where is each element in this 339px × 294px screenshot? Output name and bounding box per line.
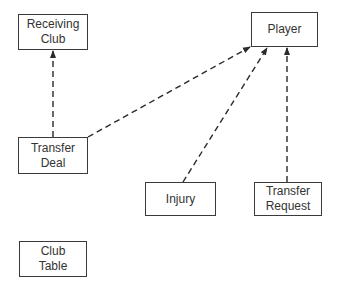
node-label: Club Table [39, 244, 68, 274]
node-label: Injury [166, 192, 195, 207]
node-club-table: Club Table [19, 241, 87, 277]
node-label: Receiving Club [27, 17, 80, 47]
node-player: Player [251, 12, 318, 47]
edge-injury-to-player [183, 48, 267, 182]
diagram-canvas: Receiving Club Player Transfer Deal Inju… [0, 0, 339, 294]
node-label: Transfer Deal [31, 141, 75, 171]
node-label: Transfer Request [266, 184, 311, 214]
node-receiving-club: Receiving Club [18, 14, 88, 50]
node-injury: Injury [145, 182, 216, 216]
node-transfer-deal: Transfer Deal [18, 137, 88, 174]
node-label: Player [267, 22, 301, 37]
node-transfer-request: Transfer Request [254, 182, 322, 216]
edge-transfer-deal-to-player [88, 47, 250, 137]
